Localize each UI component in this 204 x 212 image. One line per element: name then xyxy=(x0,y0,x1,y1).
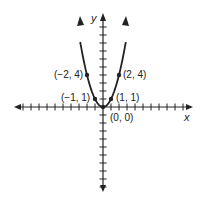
point-1-1 xyxy=(109,97,113,101)
point-neg1-1 xyxy=(93,97,97,101)
x-axis-left-arrow-icon xyxy=(14,104,21,110)
point-2-4 xyxy=(117,73,121,77)
label-neg2-4: (−2, 4) xyxy=(54,69,83,80)
curve-right-arrow-icon xyxy=(122,16,129,26)
curve-left-arrow-icon xyxy=(77,16,84,26)
point-origin xyxy=(101,105,105,109)
coordinate-plane: y x (−2, 4) (2, 4) (−1, 1) (1, 1) (0, 0) xyxy=(0,0,204,212)
y-axis-top-arrow-icon xyxy=(100,13,106,21)
label-2-4: (2, 4) xyxy=(123,69,146,80)
point-neg2-4 xyxy=(85,73,89,77)
y-axis-bottom-arrow-icon xyxy=(100,185,106,192)
y-axis-label: y xyxy=(90,12,98,24)
label-1-1: (1, 1) xyxy=(116,92,139,103)
label-neg1-1: (−1, 1) xyxy=(61,92,90,103)
x-axis-label: x xyxy=(183,111,190,123)
label-origin: (0, 0) xyxy=(110,112,133,123)
x-axis-right-arrow-icon xyxy=(186,104,193,110)
